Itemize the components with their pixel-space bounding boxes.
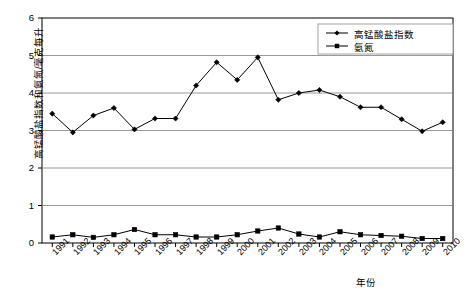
data-point-marker	[50, 235, 54, 239]
data-point-marker	[112, 233, 116, 237]
y-tick-label: 3	[20, 125, 34, 136]
data-point-marker	[379, 233, 383, 237]
y-tick-label: 4	[20, 87, 34, 98]
data-point-marker	[71, 233, 75, 237]
data-point-marker	[132, 227, 136, 231]
data-point-marker	[317, 235, 321, 239]
line-chart	[0, 0, 467, 296]
data-point-marker	[173, 233, 177, 237]
x-axis-title: 年份	[356, 275, 376, 289]
data-point-marker	[358, 233, 362, 237]
legend-marker-square	[335, 44, 339, 48]
y-tick-label: 2	[20, 162, 34, 173]
legend-item-label: 高锰酸盐指数	[354, 27, 414, 41]
data-point-marker	[297, 232, 301, 236]
data-point-marker	[91, 235, 95, 239]
data-point-marker	[399, 234, 403, 238]
data-point-marker	[153, 233, 157, 237]
y-tick-label: 6	[20, 12, 34, 23]
data-point-marker	[235, 233, 239, 237]
data-point-marker	[194, 235, 198, 239]
data-point-marker	[441, 236, 445, 240]
y-tick-label: 5	[20, 50, 34, 61]
chart-container: 高锰酸盐指数和氨氮/毫克每升 年份 0123456 19911992199319…	[0, 0, 467, 296]
data-point-marker	[338, 230, 342, 234]
data-point-marker	[214, 235, 218, 239]
data-point-marker	[256, 229, 260, 233]
data-point-marker	[276, 226, 280, 230]
y-tick-label: 0	[20, 237, 34, 248]
y-tick-label: 1	[20, 200, 34, 211]
legend-item-label: 氨氮	[354, 40, 374, 54]
data-point-marker	[420, 236, 424, 240]
